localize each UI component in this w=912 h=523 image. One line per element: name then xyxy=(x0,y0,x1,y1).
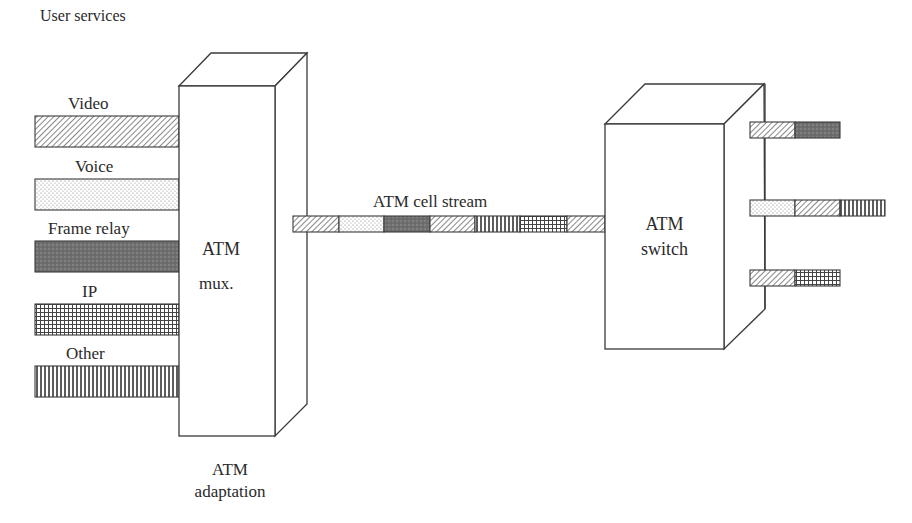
stream-cell xyxy=(384,216,430,232)
switch-label-switch: switch xyxy=(605,240,724,258)
input-label-voice: Voice xyxy=(75,158,113,175)
input-bar-video xyxy=(35,116,179,147)
stream-cell xyxy=(475,216,520,232)
stream-cell xyxy=(339,216,384,232)
output-cell xyxy=(795,270,840,286)
mux-label-mux: mux. xyxy=(199,275,233,292)
input-label-ip: IP xyxy=(82,283,97,300)
output-cell xyxy=(840,200,885,216)
mux-label-atm: ATM xyxy=(202,240,240,258)
input-bar-frame-relay xyxy=(35,241,179,272)
output-cell xyxy=(795,122,840,138)
atm-cell-stream xyxy=(293,216,605,232)
stream-cell xyxy=(520,216,567,232)
stream-cell xyxy=(430,216,475,232)
atm-diagram xyxy=(0,0,912,523)
user-services-title: User services xyxy=(40,8,126,24)
output-cell xyxy=(750,122,795,138)
input-label-other: Other xyxy=(66,345,105,362)
output-streams xyxy=(750,84,885,309)
stream-cell xyxy=(293,216,339,232)
mux-caption-atm: ATM xyxy=(180,461,280,478)
output-cell xyxy=(795,200,840,216)
input-label-frame-relay: Frame relay xyxy=(48,220,130,237)
input-bar-voice xyxy=(35,179,179,210)
input-bar-ip xyxy=(35,304,179,335)
stream-cell xyxy=(567,216,605,232)
input-label-video: Video xyxy=(68,95,109,112)
output-cell xyxy=(750,270,795,286)
input-bar-other xyxy=(35,366,179,397)
switch-label-atm: ATM xyxy=(605,215,724,233)
cell-stream-label: ATM cell stream xyxy=(373,193,487,210)
output-cell xyxy=(750,200,795,216)
mux-caption-adaptation: adaptation xyxy=(180,483,280,500)
atm-mux-box xyxy=(179,53,307,436)
